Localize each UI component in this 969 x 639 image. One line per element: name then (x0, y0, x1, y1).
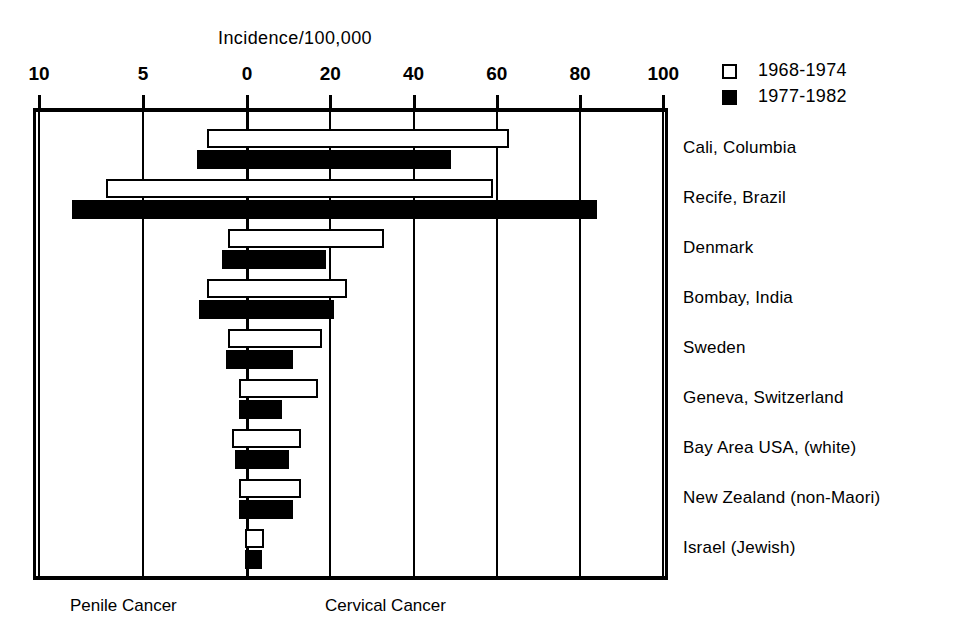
grid-line (662, 112, 664, 580)
grid-line (38, 112, 40, 580)
legend-swatch-open-icon (722, 64, 737, 79)
footer-label-penile: Penile Cancer (70, 596, 177, 616)
bar (239, 479, 301, 498)
bar (239, 500, 293, 519)
grid-line (496, 112, 498, 580)
x-axis-tick-label: 100 (647, 63, 679, 85)
bar (207, 279, 346, 298)
x-axis-tick-label: 80 (569, 63, 590, 85)
legend-label-period1: 1968-1974 (758, 60, 847, 81)
chart-root: Incidence/100,000 105020406080100 Cali, … (0, 0, 969, 639)
x-axis-tick-label: 5 (138, 63, 149, 85)
x-axis-tick-mark (329, 95, 332, 109)
x-axis-tick-label: 20 (320, 63, 341, 85)
bar (245, 550, 262, 569)
bar (235, 450, 289, 469)
category-label: Bay Area USA, (white) (683, 438, 856, 458)
chart-axis-title: Incidence/100,000 (140, 28, 450, 49)
footer-label-cervical: Cervical Cancer (325, 596, 446, 616)
bar (239, 400, 283, 419)
bar (207, 129, 509, 148)
x-axis-tick-mark (662, 95, 665, 109)
category-label: Sweden (683, 338, 746, 358)
grid-line (579, 112, 581, 580)
x-axis-tick-mark (413, 95, 416, 109)
legend-swatch-filled-icon (722, 90, 737, 105)
x-axis-tick-mark (38, 95, 41, 109)
x-axis-tick-mark (579, 95, 582, 109)
bar (228, 329, 322, 348)
bar (222, 250, 326, 269)
bar (199, 300, 334, 319)
bar (232, 429, 301, 448)
legend-label-period2: 1977-1982 (758, 86, 847, 107)
x-axis-tick-mark (496, 95, 499, 109)
x-axis-tick-mark (142, 95, 145, 109)
x-axis-tick-mark (246, 95, 249, 109)
category-label: Israel (Jewish) (683, 538, 796, 558)
category-label: Bombay, India (683, 288, 793, 308)
x-axis-tick-label: 40 (403, 63, 424, 85)
x-axis-tick-label: 60 (486, 63, 507, 85)
bar (226, 350, 293, 369)
bar (197, 150, 451, 169)
category-label: Denmark (683, 238, 753, 258)
category-label: Cali, Columbia (683, 138, 796, 158)
bar (239, 379, 318, 398)
category-label: Geneva, Switzerland (683, 388, 844, 408)
x-axis-tick-label: 0 (242, 63, 253, 85)
bar (106, 179, 493, 198)
bar (245, 529, 264, 548)
category-label: New Zealand (non-Maori) (683, 488, 880, 508)
bar (72, 200, 596, 219)
category-label: Recife, Brazil (683, 188, 786, 208)
x-axis-tick-label: 10 (28, 63, 49, 85)
bar (228, 229, 384, 248)
